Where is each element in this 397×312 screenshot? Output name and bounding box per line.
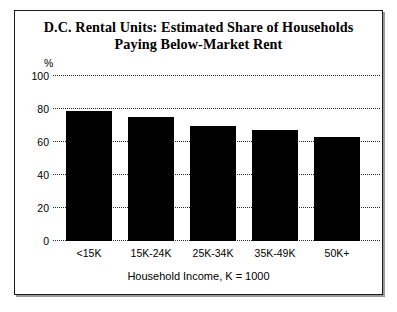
x-axis-title: Household Income, K = 1000 — [14, 270, 383, 282]
bar-25K-34K — [190, 126, 236, 242]
gridline-80 — [53, 108, 380, 109]
bar-35K-49K — [252, 130, 298, 241]
x-axis-tick-labels: <15K15K-24K25K-34K35K-49K50K+ — [53, 247, 380, 263]
x-tick-label-15K-24K: 15K-24K — [116, 247, 186, 259]
y-tick-label-80: 80 — [23, 104, 49, 114]
y-tick-label-40: 40 — [23, 170, 49, 180]
plot-area — [53, 76, 380, 241]
chart-title-line-1: D.C. Rental Units: Estimated Share of Ho… — [44, 19, 354, 35]
x-tick-label-50K+: 50K+ — [302, 247, 372, 259]
y-tick-label-60: 60 — [23, 137, 49, 147]
x-tick-label-35K-49K: 35K-49K — [240, 247, 310, 259]
chart-title-line-2: Paying Below-Market Rent — [15, 36, 382, 53]
x-tick-label-<15K: <15K — [54, 247, 124, 259]
chart-title: D.C. Rental Units: Estimated Share of Ho… — [15, 19, 382, 52]
y-tick-label-100: 100 — [23, 71, 49, 81]
y-tick-label-20: 20 — [23, 203, 49, 213]
gridline-100 — [53, 75, 380, 76]
y-axis-unit-label: % — [44, 57, 53, 69]
bar-<15K — [66, 111, 112, 241]
bar-15K-24K — [128, 117, 174, 241]
y-axis-tick-labels: 020406080100 — [21, 76, 49, 241]
y-tick-label-0: 0 — [23, 236, 49, 246]
bar-50K+ — [314, 137, 360, 241]
x-tick-label-25K-34K: 25K-34K — [178, 247, 248, 259]
